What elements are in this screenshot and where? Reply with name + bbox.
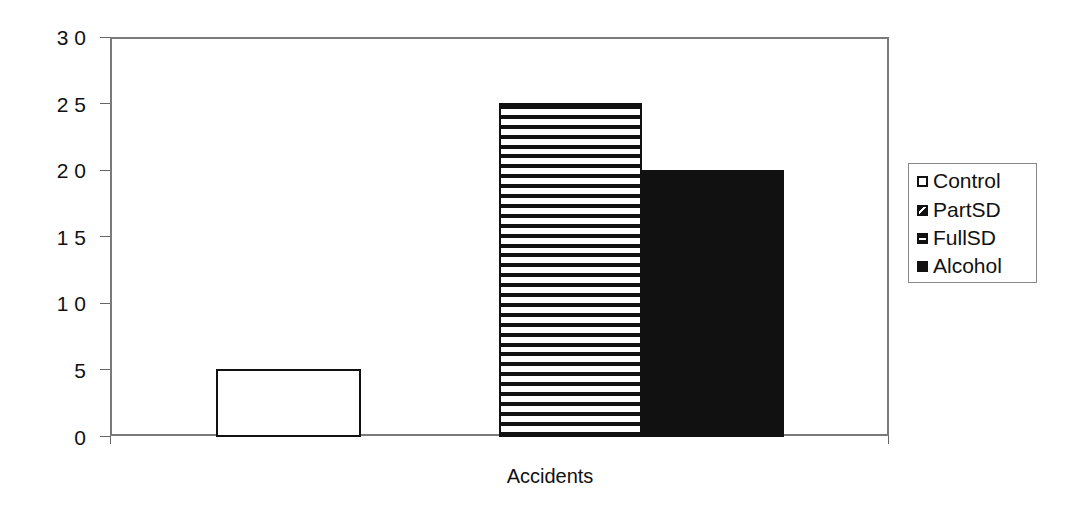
legend-item-control: Control: [917, 167, 1001, 195]
legend-label: Alcohol: [933, 254, 1002, 278]
y-tick-label-10: 10: [0, 293, 92, 314]
y-tick: [100, 170, 110, 171]
x-axis-category-label: Accidents: [400, 465, 700, 488]
y-tick: [100, 436, 110, 437]
legend-label: FullSD: [933, 226, 996, 250]
x-tick: [888, 436, 889, 444]
bar-alcohol: [641, 170, 784, 437]
legend-item-fullsd: FullSD: [917, 224, 996, 252]
y-tick-label-20: 20: [0, 160, 92, 181]
y-tick: [100, 303, 110, 304]
y-tick-label-30: 30: [0, 27, 92, 48]
y-tick-label-0: 0: [0, 427, 92, 448]
y-tick-label-25: 25: [0, 94, 92, 115]
legend-swatch-partsd-icon: [917, 205, 928, 216]
bar-control: [216, 369, 361, 437]
legend: Control PartSD FullSD Alcohol: [908, 163, 1037, 283]
y-tick: [100, 236, 110, 237]
legend-swatch-alcohol-icon: [917, 261, 928, 272]
y-tick-label-5: 5: [0, 360, 92, 381]
y-tick: [100, 369, 110, 370]
y-tick: [100, 37, 110, 38]
legend-swatch-fullsd-icon: [917, 233, 928, 244]
legend-label: PartSD: [933, 198, 1001, 222]
legend-label: Control: [933, 169, 1001, 193]
bar-fullsd: [499, 103, 642, 437]
y-tick-label-15: 15: [0, 227, 92, 248]
y-tick: [100, 103, 110, 104]
legend-item-partsd: PartSD: [917, 196, 1001, 224]
legend-item-alcohol: Alcohol: [917, 252, 1002, 280]
x-tick: [110, 436, 111, 444]
legend-swatch-control-icon: [917, 176, 928, 187]
